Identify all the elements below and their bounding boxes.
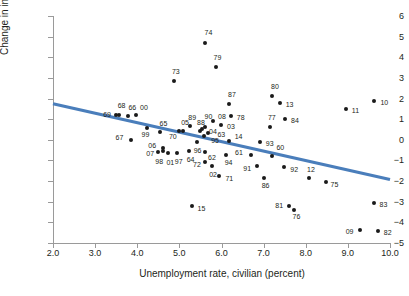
data-point xyxy=(175,151,179,155)
data-point xyxy=(166,151,170,155)
data-point-label: 11 xyxy=(352,107,359,114)
x-tick-label: 9.0 xyxy=(328,249,368,258)
data-point xyxy=(203,160,207,164)
data-point xyxy=(145,126,149,130)
data-point xyxy=(270,154,274,158)
data-point-label: 66 xyxy=(128,104,136,111)
data-point xyxy=(307,176,311,180)
data-point xyxy=(203,41,207,45)
data-point xyxy=(376,229,380,233)
data-point-label: 14 xyxy=(235,133,243,140)
data-point-label: 80 xyxy=(271,83,279,90)
data-point xyxy=(190,204,194,208)
data-point-label: 60 xyxy=(276,144,284,151)
data-point-label: 89 xyxy=(188,114,196,121)
data-point-label: 82 xyxy=(384,229,392,236)
data-point xyxy=(195,140,199,144)
data-point xyxy=(324,180,328,184)
data-point-label: 05 xyxy=(181,119,189,126)
data-point xyxy=(129,138,133,142)
data-point xyxy=(270,94,274,98)
data-point-label: 65 xyxy=(160,120,168,127)
data-point-label: 81 xyxy=(275,202,283,209)
data-point-label: 94 xyxy=(225,159,233,166)
data-point-label: 77 xyxy=(268,114,276,121)
data-point-label: 62 xyxy=(208,154,216,161)
data-point xyxy=(181,129,185,133)
data-point-label: 87 xyxy=(228,91,236,98)
data-point-label: 99 xyxy=(142,131,150,138)
x-tick-label: 6.0 xyxy=(202,249,242,258)
data-point xyxy=(229,114,233,118)
data-point-label: 15 xyxy=(198,205,206,212)
data-point xyxy=(372,201,376,205)
data-point xyxy=(224,153,228,157)
x-tick-label: 8.0 xyxy=(286,249,326,258)
data-point-label: 86 xyxy=(262,182,270,189)
data-point-label: 10 xyxy=(380,99,388,106)
data-point xyxy=(219,123,223,127)
data-point-label: 74 xyxy=(204,29,212,36)
data-point xyxy=(158,130,162,134)
data-point xyxy=(268,125,272,129)
data-point-label: 00 xyxy=(140,104,148,111)
data-point xyxy=(258,140,262,144)
x-tick-label: 2.0 xyxy=(33,249,73,258)
data-point-label: 13 xyxy=(286,101,294,108)
data-point xyxy=(134,113,138,117)
x-tick-label: 4.0 xyxy=(117,249,157,258)
data-point xyxy=(227,102,231,106)
data-point xyxy=(292,208,296,212)
data-point-label: 61 xyxy=(235,149,243,156)
data-point-label: 95 xyxy=(211,137,219,144)
data-point-label: 08 xyxy=(218,113,226,120)
data-point xyxy=(172,79,176,83)
data-point xyxy=(200,127,204,131)
data-point xyxy=(156,150,160,154)
data-point-label: 84 xyxy=(291,117,299,124)
data-point-label: 06 xyxy=(148,142,156,149)
data-point-label: 68 xyxy=(118,102,126,109)
data-point-label: 02 xyxy=(209,171,217,178)
data-point xyxy=(249,153,253,157)
data-point-label: 71 xyxy=(225,175,233,182)
data-point-label: 01 xyxy=(166,159,174,166)
data-point-label: 93 xyxy=(266,140,274,147)
data-point-label: 72 xyxy=(193,161,201,168)
data-point xyxy=(372,99,376,103)
data-point xyxy=(210,164,214,168)
data-point-label: 96 xyxy=(194,147,202,154)
data-point xyxy=(344,107,348,111)
data-point xyxy=(202,134,206,138)
y-axis-title: Change in inflation (percent) xyxy=(0,0,10,55)
x-tick-label: 10.0 xyxy=(370,249,409,258)
data-point-label: 73 xyxy=(172,68,180,75)
data-point-label: 12 xyxy=(307,166,315,173)
data-point xyxy=(211,119,215,123)
data-point-label: 09 xyxy=(346,228,354,235)
data-point xyxy=(217,174,221,178)
data-point-label: 91 xyxy=(243,165,251,172)
x-axis-title: Unemployment rate, civilian (percent) xyxy=(53,268,391,279)
data-point xyxy=(262,176,266,180)
data-point xyxy=(255,164,259,168)
data-point-label: 97 xyxy=(175,158,183,165)
data-point xyxy=(283,117,287,121)
data-point xyxy=(187,149,191,153)
data-point-label: 92 xyxy=(290,166,298,173)
data-point-label: 69 xyxy=(103,111,111,118)
x-tick-label: 5.0 xyxy=(159,249,199,258)
data-point-label: 83 xyxy=(380,201,388,208)
data-point-label: 75 xyxy=(331,181,339,188)
data-point xyxy=(114,113,118,117)
data-point xyxy=(214,65,218,69)
data-point xyxy=(161,149,165,153)
data-point xyxy=(126,114,130,118)
x-tick-label: 7.0 xyxy=(244,249,284,258)
data-point-label: 79 xyxy=(214,54,222,61)
data-point xyxy=(358,228,362,232)
data-point-label: 03 xyxy=(227,123,235,130)
data-point xyxy=(203,150,207,154)
data-point xyxy=(203,125,207,129)
